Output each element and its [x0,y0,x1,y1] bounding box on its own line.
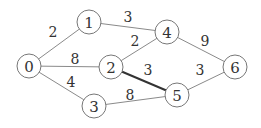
edge-weight-0-1: 2 [49,24,58,40]
edge-weight-3-5: 8 [126,87,135,103]
node-6: 6 [223,55,247,79]
edge-weight-2-5: 3 [144,62,153,78]
node-0: 0 [17,54,41,78]
edge-3-5 [94,95,177,106]
node-5: 5 [165,83,189,107]
node-1: 1 [77,10,101,34]
graph-diagram: 284323893 0123456 [0,0,261,128]
node-3: 3 [82,94,106,118]
edge-weight-4-6: 9 [201,33,210,49]
node-label: 2 [106,59,116,77]
node-label: 5 [172,87,182,105]
node-label: 1 [84,14,94,32]
node-label: 6 [230,59,240,77]
edge-weight-1-4: 3 [124,9,133,25]
node-2: 2 [99,55,123,79]
edge-weight-0-3: 4 [67,74,76,90]
node-4: 4 [155,20,179,44]
node-label: 3 [89,98,99,116]
edge-weight-0-2: 8 [71,51,80,67]
edge-weight-5-6: 3 [196,62,205,78]
edge-weight-2-4: 2 [131,33,140,49]
node-label: 4 [162,24,172,42]
node-label: 0 [24,58,34,76]
